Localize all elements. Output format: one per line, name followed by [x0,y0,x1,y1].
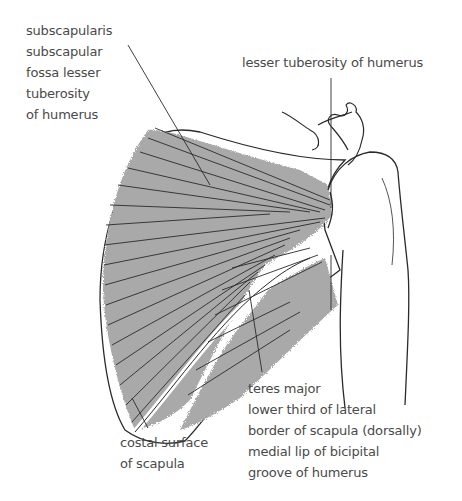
label-line: subscapularis [26,20,112,41]
label-line: tuberosity [26,83,112,104]
humerus [328,152,409,408]
label-line: of humerus [26,104,112,125]
label-line: fossa lesser [26,62,112,83]
label-costal-surface: costal surface of scapula [120,432,208,474]
label-subscapularis: subscapularis subscapular fossa lesser t… [26,20,112,125]
label-line: medial lip of bicipital [248,441,422,462]
label-line: border of scapula (dorsally) [248,420,422,441]
label-line: groove of humerus [248,462,422,483]
label-line: lesser tuberosity of humerus [242,52,423,73]
label-line: teres major [248,378,422,399]
label-line: costal surface [120,432,208,453]
label-line: lower third of lateral [248,399,422,420]
label-line: of scapula [120,453,208,474]
label-line: subscapular [26,41,112,62]
anatomy-figure: subscapularis subscapular fossa lesser t… [0,0,462,501]
label-teres-major: teres major lower third of lateral borde… [248,378,422,483]
label-lesser-tuberosity: lesser tuberosity of humerus [242,52,423,73]
